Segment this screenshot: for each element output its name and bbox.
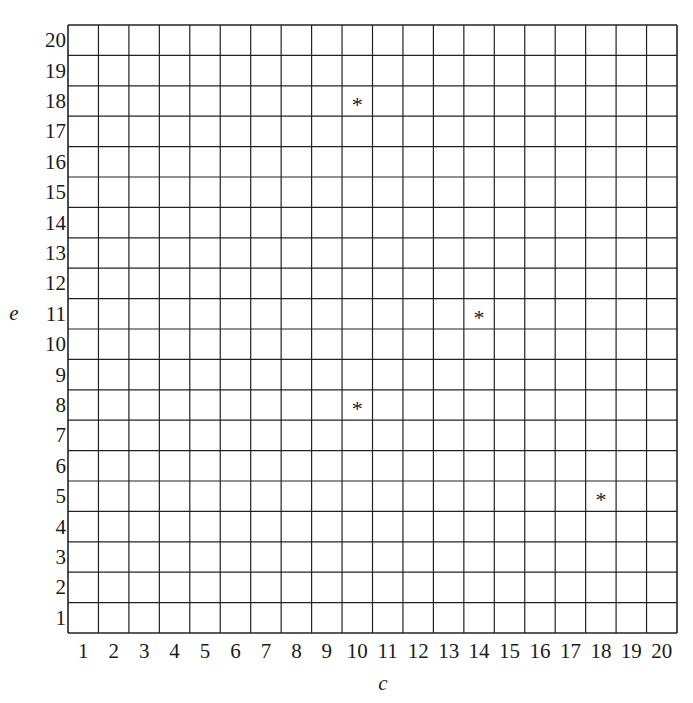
- x-tick-label: 15: [499, 639, 520, 663]
- x-tick-label: 2: [108, 639, 119, 663]
- y-tick-label: 16: [45, 150, 66, 174]
- y-tick-label: 20: [45, 28, 66, 52]
- y-tick-label: 5: [56, 484, 67, 508]
- y-tick-label: 4: [56, 515, 67, 539]
- x-tick-label: 11: [378, 639, 398, 663]
- x-tick-label: 9: [322, 639, 333, 663]
- x-tick-label: 20: [651, 639, 672, 663]
- y-axis-label: e: [9, 301, 18, 325]
- y-tick-label: 6: [56, 454, 67, 478]
- x-tick-label: 4: [169, 639, 180, 663]
- asterisk-marker: *: [474, 305, 485, 330]
- y-tick-label: 14: [45, 211, 67, 235]
- x-tick-label: 3: [139, 639, 150, 663]
- y-tick-label: 19: [45, 59, 66, 83]
- x-tick-label: 12: [408, 639, 429, 663]
- chart-grid: [68, 25, 677, 633]
- x-tick-label: 13: [438, 639, 459, 663]
- y-tick-label: 12: [45, 271, 66, 295]
- x-tick-label: 7: [261, 639, 272, 663]
- asterisk-marker: *: [352, 396, 363, 421]
- asterisk-marker: *: [352, 92, 363, 117]
- data-points: ****: [352, 92, 607, 512]
- y-tick-label: 17: [45, 119, 66, 143]
- y-tick-label: 8: [56, 393, 67, 417]
- x-tick-label: 17: [560, 639, 581, 663]
- y-tick-label: 15: [45, 180, 66, 204]
- y-tick-label: 1: [56, 606, 67, 630]
- x-tick-label: 1: [78, 639, 89, 663]
- y-tick-label: 7: [56, 423, 67, 447]
- y-tick-label: 13: [45, 241, 66, 265]
- x-tick-label: 10: [347, 639, 368, 663]
- asterisk-marker: *: [595, 487, 606, 512]
- y-tick-label: 2: [56, 575, 67, 599]
- y-tick-label: 3: [56, 545, 67, 569]
- x-tick-label: 18: [590, 639, 611, 663]
- y-tick-label: 10: [45, 332, 66, 356]
- x-tick-label: 19: [621, 639, 642, 663]
- x-tick-label: 14: [469, 639, 491, 663]
- x-tick-label: 5: [200, 639, 211, 663]
- y-tick-label: 18: [45, 89, 66, 113]
- x-tick-label: 8: [291, 639, 302, 663]
- x-tick-label: 16: [529, 639, 550, 663]
- y-tick-label: 9: [56, 363, 67, 387]
- x-axis-ticks: 1234567891011121314151617181920: [78, 639, 672, 663]
- y-tick-label: 11: [46, 302, 66, 326]
- x-tick-label: 6: [230, 639, 241, 663]
- x-axis-label: c: [378, 671, 388, 695]
- grid-chart: 1234567891011121314151617181920 12345678…: [0, 0, 693, 703]
- y-axis-ticks: 1234567891011121314151617181920: [45, 28, 67, 630]
